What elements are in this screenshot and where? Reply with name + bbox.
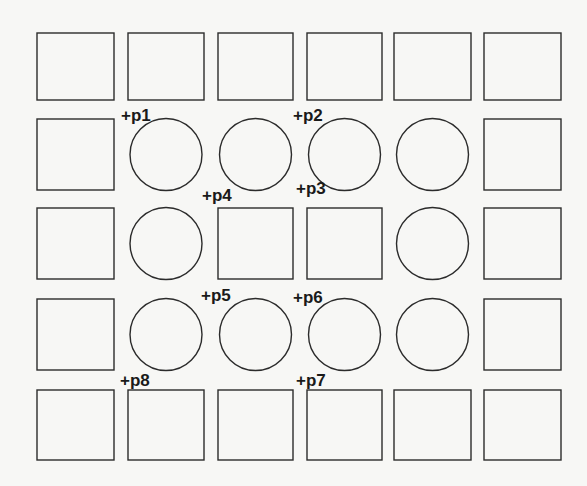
square-cell <box>484 208 561 279</box>
point-label-p1: +p1 <box>121 106 151 125</box>
point-label-p7: +p7 <box>296 371 326 390</box>
square-cell <box>218 208 293 279</box>
square-cell <box>37 390 114 460</box>
square-cell <box>128 390 204 460</box>
square-cell <box>128 33 204 100</box>
point-label-p5: +p5 <box>201 286 231 305</box>
square-cell <box>394 390 471 460</box>
circle-cell <box>220 119 292 191</box>
square-cell <box>218 33 293 100</box>
circle-cell <box>397 208 469 280</box>
point-labels: +p1+p2+p3+p4+p5+p6+p7+p8 <box>120 106 326 390</box>
circle-cell <box>130 119 202 191</box>
square-cell <box>484 119 561 190</box>
circle-cell <box>397 119 469 191</box>
square-cell <box>484 390 561 460</box>
point-label-p4: +p4 <box>202 186 232 205</box>
circle-cell <box>130 299 202 371</box>
point-label-p2: +p2 <box>293 106 323 125</box>
square-cell <box>37 299 114 370</box>
circle-cell <box>397 299 469 371</box>
square-cell <box>37 119 114 190</box>
grid-diagram: +p1+p2+p3+p4+p5+p6+p7+p8 <box>0 0 587 486</box>
point-label-p6: +p6 <box>293 288 323 307</box>
square-cell <box>394 33 471 100</box>
square-cell <box>307 390 382 460</box>
point-label-p3: +p3 <box>296 179 326 198</box>
square-cell <box>484 33 561 100</box>
square-cell <box>484 299 561 370</box>
square-cell <box>218 390 293 460</box>
circle-cell <box>309 299 381 371</box>
square-cell <box>37 208 114 279</box>
square-cell <box>307 33 382 100</box>
point-label-p8: +p8 <box>120 371 150 390</box>
shape-grid <box>37 33 561 460</box>
circle-cell <box>220 299 292 371</box>
square-cell <box>37 33 114 100</box>
circle-cell <box>130 208 202 280</box>
square-cell <box>307 208 382 279</box>
